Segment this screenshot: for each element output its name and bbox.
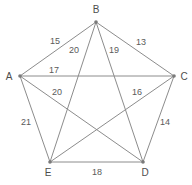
graph-edge-ec xyxy=(50,76,174,162)
vertex-label-b: B xyxy=(93,5,100,15)
edge-weight-ec: 16 xyxy=(132,88,142,97)
edge-weight-ac: 17 xyxy=(49,66,59,75)
graph-diagram-canvas: BACED 15131721181420192016 xyxy=(0,0,192,185)
graph-vertex-d xyxy=(141,160,145,164)
graph-vertex-b xyxy=(94,20,98,24)
vertices-layer xyxy=(18,20,176,164)
vertex-label-d: D xyxy=(141,168,148,178)
graph-edge-ad xyxy=(20,76,143,162)
graph-edge-bc xyxy=(96,22,174,76)
edges-layer xyxy=(20,22,174,162)
graph-vertex-c xyxy=(172,74,176,78)
edge-weight-ab: 15 xyxy=(50,37,60,46)
vertex-label-e: E xyxy=(45,168,52,178)
graph-vertex-e xyxy=(48,160,52,164)
pentagon-graph-svg xyxy=(0,0,192,185)
vertex-label-c: C xyxy=(180,72,187,82)
edge-weight-be: 20 xyxy=(69,46,79,55)
edge-weight-ad: 20 xyxy=(52,88,62,97)
graph-vertex-a xyxy=(18,74,22,78)
edge-weight-ae: 21 xyxy=(21,118,31,127)
edge-weight-bd: 19 xyxy=(109,46,119,55)
edge-weight-dc: 14 xyxy=(160,118,170,127)
vertex-label-a: A xyxy=(6,72,13,82)
edge-weight-bc: 13 xyxy=(136,38,146,47)
edge-weight-ed: 18 xyxy=(92,168,102,177)
